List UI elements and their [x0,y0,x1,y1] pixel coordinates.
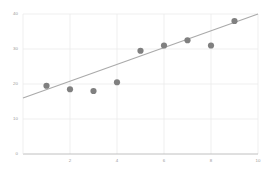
data-point [67,86,73,92]
data-point [137,48,143,54]
y-tick-label: 40 [2,12,18,16]
scatter-chart: 403020100 246810 [0,0,264,170]
data-point [208,42,214,48]
y-tick-label: 10 [2,117,18,121]
x-tick-label: 8 [202,159,220,163]
data-point [231,18,237,24]
x-tick-label: 2 [61,159,79,163]
data-point [90,88,96,94]
y-tick-label: 30 [2,47,18,51]
data-point [114,79,120,85]
x-tick-label: 10 [249,159,264,163]
data-point [161,42,167,48]
trend-line [23,14,258,98]
plot-area [0,0,264,170]
y-tick-label: 0 [2,152,18,156]
data-point [43,83,49,89]
data-point [184,37,190,43]
x-tick-label: 4 [108,159,126,163]
y-tick-label: 20 [2,82,18,86]
trend-line-segment [23,14,258,98]
gridlines-horizontal [23,14,258,119]
x-tick-label: 6 [155,159,173,163]
